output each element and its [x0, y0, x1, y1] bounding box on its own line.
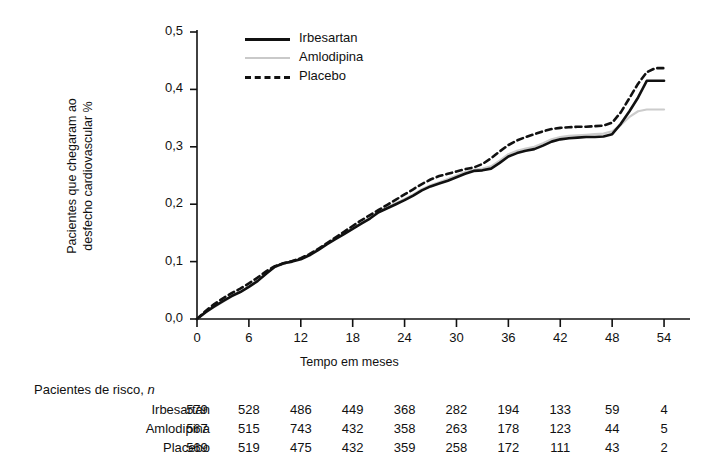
risk-caption-text: Pacientes de risco,: [34, 382, 147, 397]
risk-cell: 528: [229, 402, 269, 417]
y-tick-label: 0,0: [149, 310, 183, 325]
x-tick-label: 12: [286, 330, 316, 345]
x-tick-label: 0: [182, 330, 212, 345]
risk-cell: 59: [592, 402, 632, 417]
risk-table-row: Irbesartan579528486449368282194133594: [0, 402, 702, 421]
y-tick-label: 0,3: [149, 138, 183, 153]
risk-table-caption: Pacientes de risco, n: [34, 382, 155, 397]
risk-caption-n: n: [147, 382, 154, 397]
x-tick-label: 42: [545, 330, 575, 345]
risk-cell: 282: [436, 402, 476, 417]
legend-item-placebo: Placebo: [245, 66, 363, 85]
y-tick-label: 0,2: [149, 195, 183, 210]
x-tick-label: 30: [441, 330, 471, 345]
y-tick-label: 0,1: [149, 253, 183, 268]
series-line-irbesartan: [197, 81, 664, 319]
risk-cell: 743: [281, 421, 321, 436]
legend: IrbesartanAmlodipinaPlacebo: [245, 28, 363, 85]
risk-cell: 475: [281, 440, 321, 455]
x-tick-label: 6: [234, 330, 264, 345]
risk-cell: 519: [229, 440, 269, 455]
risk-cell: 194: [488, 402, 528, 417]
legend-swatch-icon: [245, 32, 290, 44]
risk-cell: 111: [540, 440, 580, 455]
risk-cell: 567: [177, 421, 217, 436]
risk-cell: 4: [644, 402, 684, 417]
x-axis-title: Tempo em meses: [300, 355, 399, 369]
legend-label: Placebo: [299, 68, 346, 83]
risk-table-row: Placebo569519475432359258172111432: [0, 440, 702, 459]
risk-cell: 43: [592, 440, 632, 455]
legend-label: Amlodipina: [299, 49, 363, 64]
risk-cell: 358: [385, 421, 425, 436]
y-axis-ticks: [190, 32, 197, 319]
series-line-amlodipina: [197, 109, 664, 319]
y-tick-label: 0,5: [149, 23, 183, 38]
risk-cell: 123: [540, 421, 580, 436]
legend-item-amlodipina: Amlodipina: [245, 47, 363, 66]
risk-cell: 5: [644, 421, 684, 436]
risk-cell: 133: [540, 402, 580, 417]
risk-cell: 569: [177, 440, 217, 455]
data-series-group: [197, 68, 664, 319]
x-tick-label: 24: [390, 330, 420, 345]
x-axis-ticks: [197, 319, 664, 327]
legend-swatch-icon: [245, 70, 290, 82]
risk-cell: 515: [229, 421, 269, 436]
legend-item-irbesartan: Irbesartan: [245, 28, 363, 47]
risk-cell: 449: [333, 402, 373, 417]
y-tick-label: 0,4: [149, 80, 183, 95]
risk-cell: 172: [488, 440, 528, 455]
x-tick-label: 48: [597, 330, 627, 345]
risk-cell: 258: [436, 440, 476, 455]
x-tick-label: 36: [493, 330, 523, 345]
risk-cell: 178: [488, 421, 528, 436]
risk-table-row: Amlodipina567515743432358263178123445: [0, 421, 702, 440]
risk-cell: 2: [644, 440, 684, 455]
risk-cell: 359: [385, 440, 425, 455]
kaplan-meier-figure: Pacientes que chegaram ao desfecho cardi…: [0, 0, 702, 464]
risk-cell: 368: [385, 402, 425, 417]
legend-swatch-icon: [245, 51, 290, 63]
risk-cell: 432: [333, 440, 373, 455]
risk-cell: 263: [436, 421, 476, 436]
risk-cell: 44: [592, 421, 632, 436]
risk-cell: 432: [333, 421, 373, 436]
x-tick-label: 54: [649, 330, 679, 345]
risk-cell: 579: [177, 402, 217, 417]
legend-label: Irbesartan: [299, 30, 358, 45]
risk-cell: 486: [281, 402, 321, 417]
x-tick-label: 18: [338, 330, 368, 345]
series-line-placebo: [197, 68, 664, 319]
